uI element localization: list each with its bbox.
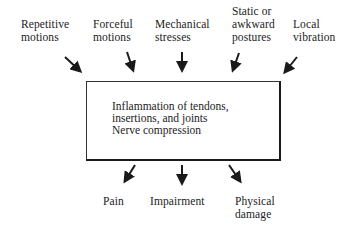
output-label-impairment: Impairment: [150, 195, 205, 208]
arrow-icon: [65, 57, 80, 71]
arrow-icon: [127, 52, 133, 70]
output-label-line: Pain: [103, 195, 124, 208]
arrow-icon: [233, 53, 239, 70]
arrow-icon: [285, 57, 297, 72]
central-effects-box: Inflammation of tendons, insertions, and…: [86, 81, 281, 161]
output-label-line: damage: [235, 208, 275, 221]
box-text-line: Nerve compression: [112, 125, 229, 137]
output-label-line: Impairment: [150, 195, 205, 208]
box-text-line: insertions, and joints: [112, 113, 229, 125]
output-label-line: Physical: [235, 195, 275, 208]
arrow-icon: [229, 165, 240, 181]
central-effects-text: Inflammation of tendons, insertions, and…: [112, 101, 229, 136]
output-label-pain: Pain: [103, 195, 124, 208]
output-label-physical-damage: Physical damage: [235, 195, 275, 221]
arrow-icon: [125, 165, 135, 181]
